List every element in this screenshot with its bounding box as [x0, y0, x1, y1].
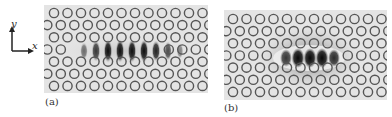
lattice-hole	[117, 81, 126, 90]
lattice-hole	[363, 87, 372, 96]
lattice-hole	[228, 87, 237, 96]
lattice-hole	[242, 14, 251, 23]
lattice-hole	[255, 87, 264, 96]
lattice-hole	[117, 8, 126, 17]
lattice-hole	[350, 14, 359, 23]
lattice-hole	[198, 33, 207, 42]
lattice-hole	[224, 27, 231, 36]
lattice-hole	[384, 75, 387, 84]
lattice-hole	[49, 81, 58, 90]
lattice-hole	[198, 57, 207, 66]
lattice-hole	[350, 87, 359, 96]
lattice-hole	[198, 8, 207, 17]
lattice-hole	[178, 21, 187, 30]
lattice-hole	[377, 14, 386, 23]
lattice-hole	[76, 81, 85, 90]
lattice-hole	[184, 8, 193, 17]
x-axis-label: x	[32, 40, 38, 51]
lattice-hole	[137, 21, 146, 30]
mode-field-b	[224, 10, 387, 100]
lattice-hole	[205, 45, 208, 54]
lattice-hole	[336, 87, 345, 96]
lattice-hole	[103, 81, 112, 90]
lattice-hole	[171, 8, 180, 17]
lattice-hole	[224, 51, 231, 60]
lattice-hole	[296, 14, 305, 23]
lattice-hole	[157, 8, 166, 17]
lattice-hole	[103, 8, 112, 17]
lattice-hole	[262, 27, 271, 36]
lattice-hole	[249, 75, 258, 84]
lattice-hole	[110, 21, 119, 30]
lattice-hole	[70, 69, 79, 78]
lattice-hole	[228, 39, 237, 48]
lattice-hole	[370, 75, 379, 84]
lattice-hole	[83, 69, 92, 78]
lattice-hole	[242, 63, 251, 72]
lattice-hole	[235, 27, 244, 36]
lattice-hole	[144, 8, 153, 17]
panel-b-label: (b)	[224, 102, 238, 113]
lattice-hole	[44, 45, 52, 54]
lattice-hole	[370, 51, 379, 60]
lattice-hole	[110, 69, 119, 78]
lattice-hole	[242, 87, 251, 96]
lattice-hole	[205, 69, 208, 78]
lattice-hole	[255, 14, 264, 23]
lattice-hole	[357, 75, 366, 84]
lattice-hole	[282, 14, 291, 23]
lattice-hole	[76, 8, 85, 17]
lattice-hole	[377, 87, 386, 96]
lattice-hole	[151, 69, 160, 78]
lattice-hole	[184, 81, 193, 90]
lattice-hole	[224, 75, 231, 84]
panel-b-lattice	[224, 10, 387, 100]
lattice-hole	[269, 14, 278, 23]
lattice-hole	[44, 69, 52, 78]
lattice-hole	[178, 69, 187, 78]
lattice-hole	[124, 21, 133, 30]
lattice-hole	[157, 81, 166, 90]
lattice-hole	[235, 75, 244, 84]
lattice-hole	[164, 69, 173, 78]
lattice-hole	[49, 57, 58, 66]
panel-a-lattice	[44, 5, 208, 93]
lattice-hole	[124, 69, 133, 78]
lattice-hole	[363, 14, 372, 23]
lattice-hole	[56, 21, 65, 30]
lattice-hole	[44, 21, 52, 30]
lattice-hole	[63, 81, 72, 90]
lattice-hole	[269, 87, 278, 96]
lattice-hole	[370, 27, 379, 36]
lattice-hole	[323, 14, 332, 23]
lattice-hole	[377, 39, 386, 48]
lattice-hole	[384, 27, 387, 36]
lattice-hole	[191, 21, 200, 30]
lattice-hole	[228, 14, 237, 23]
y-axis-label: y	[10, 20, 17, 29]
lattice-hole	[164, 21, 173, 30]
lattice-hole	[97, 21, 106, 30]
lattice-hole	[184, 57, 193, 66]
lattice-hole	[363, 63, 372, 72]
mode-field-a	[44, 5, 208, 93]
xy-axes-indicator: y x	[2, 20, 42, 60]
lattice-hole	[63, 8, 72, 17]
lattice-hole	[191, 69, 200, 78]
lattice-hole	[56, 69, 65, 78]
lattice-hole	[90, 81, 99, 90]
lattice-hole	[137, 69, 146, 78]
lattice-hole	[70, 21, 79, 30]
lattice-hole	[97, 69, 106, 78]
lattice-hole	[309, 14, 318, 23]
lattice-hole	[249, 27, 258, 36]
lattice-hole	[130, 8, 139, 17]
lattice-hole	[198, 81, 207, 90]
panel-a-label: (a)	[45, 96, 59, 107]
lattice-hole	[49, 33, 58, 42]
lattice-hole	[83, 21, 92, 30]
lattice-hole	[171, 81, 180, 90]
lattice-hole	[130, 81, 139, 90]
lattice-hole	[336, 14, 345, 23]
lattice-hole	[144, 81, 153, 90]
